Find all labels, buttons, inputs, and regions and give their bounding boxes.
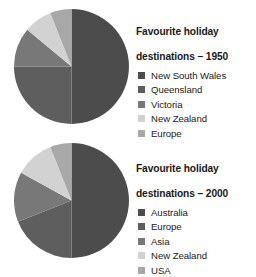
legend-item: Asia — [136, 234, 256, 248]
legend-swatch-icon — [138, 223, 145, 230]
legend-item: New Zealand — [136, 112, 256, 126]
legend-item-label: Europe — [151, 221, 182, 232]
pie-slice — [72, 143, 129, 258]
legend-item-label: USA — [151, 265, 171, 276]
legend-item: New Zealand — [136, 249, 256, 263]
legend-item: Victoria — [136, 97, 256, 111]
legend-item: Queensland — [136, 83, 256, 97]
legend-panel-1950: Favourite holiday destinations – 1950 Ne… — [136, 13, 256, 140]
legend-item-label: New Zealand — [151, 250, 207, 261]
pie-slices-2000 — [14, 143, 129, 258]
pie-svg-2000 — [14, 143, 129, 258]
chart-title-1950: Favourite holiday destinations – 1950 — [136, 13, 256, 63]
pie-svg-1950 — [14, 9, 129, 124]
chart-title-line2: destinations – 1950 — [136, 51, 228, 62]
legend-panel-2000: Favourite holiday destinations – 2000 Au… — [136, 150, 256, 277]
legend-item-label: Queensland — [151, 84, 202, 95]
legend-list-1950: New South Wales Queensland Victoria New … — [136, 68, 256, 140]
legend-list-2000: Australia Europe Asia New Zealand USA — [136, 205, 256, 277]
pie-slices-1950 — [14, 9, 129, 124]
legend-item-label: Victoria — [151, 99, 182, 110]
legend-swatch-icon — [138, 238, 145, 245]
legend-item: Australia — [136, 205, 256, 219]
legend-swatch-icon — [138, 72, 145, 79]
chart-title-line2: destinations – 2000 — [136, 188, 228, 199]
legend-swatch-icon — [138, 252, 145, 259]
legend-swatch-icon — [138, 267, 145, 274]
legend-swatch-icon — [138, 209, 145, 216]
legend-item-label: Asia — [151, 236, 169, 247]
chart-title-line1: Favourite holiday — [136, 26, 219, 37]
legend-swatch-icon — [138, 101, 145, 108]
legend-swatch-icon — [138, 86, 145, 93]
legend-swatch-icon — [138, 115, 145, 122]
legend-item-label: New South Wales — [151, 70, 226, 81]
pie-slice — [14, 67, 72, 125]
legend-item: Europe — [136, 220, 256, 234]
chart-section-2000: Favourite holiday destinations – 2000 Au… — [0, 133, 256, 266]
legend-item-label: New Zealand — [151, 113, 207, 124]
legend-item-label: Australia — [151, 207, 188, 218]
legend-item: USA — [136, 263, 256, 277]
chart-title-2000: Favourite holiday destinations – 2000 — [136, 150, 256, 200]
chart-section-1950: Favourite holiday destinations – 1950 Ne… — [0, 0, 256, 133]
legend-item: New South Wales — [136, 68, 256, 82]
pie-chart-1950 — [14, 9, 129, 124]
chart-title-line1: Favourite holiday — [136, 163, 219, 174]
pie-slice — [72, 9, 129, 124]
pie-chart-2000 — [14, 143, 129, 258]
